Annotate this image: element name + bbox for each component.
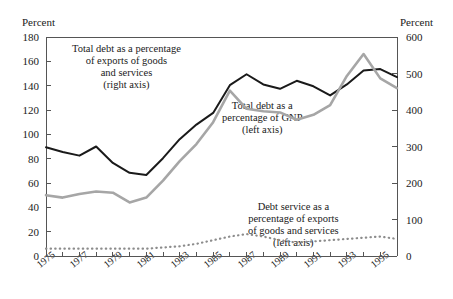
axis-ticks	[46, 37, 397, 256]
plot-area	[0, 0, 453, 299]
plot-frame	[46, 37, 397, 256]
chart-figure: Percent Percent 180160140120100806040200…	[0, 0, 453, 299]
series-line-2	[46, 234, 397, 249]
data-series	[46, 54, 397, 249]
series-line-1	[46, 54, 397, 202]
series-line-0	[46, 69, 397, 175]
